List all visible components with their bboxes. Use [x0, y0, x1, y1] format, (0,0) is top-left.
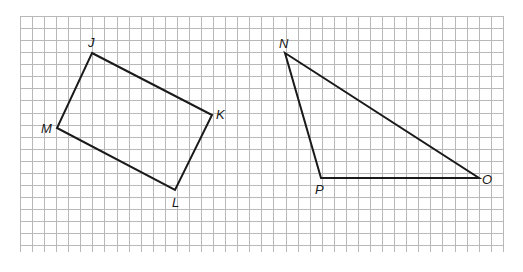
vertex-label-o: O [482, 172, 492, 187]
vertex-label-m: M [41, 121, 52, 136]
grid-paper [20, 16, 504, 252]
vertex-label-j: J [87, 35, 95, 50]
vertex-label-p: P [315, 182, 324, 197]
geometry-figure: JKLMNOP [0, 0, 523, 272]
vertex-label-l: L [172, 195, 179, 210]
vertex-label-n: N [279, 36, 289, 51]
vertex-label-k: K [216, 107, 226, 122]
shapes-layer [57, 53, 479, 190]
